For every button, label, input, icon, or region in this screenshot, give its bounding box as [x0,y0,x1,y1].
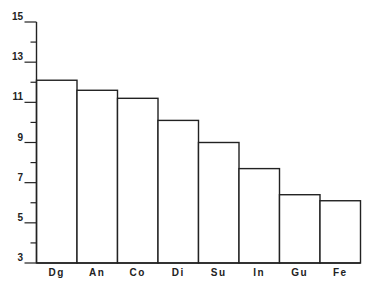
y-ticks: 3579111315 [12,11,37,263]
x-category-labels: DgAnCoDiSuInGuFe [49,267,348,278]
y-tick-label: 13 [12,51,24,62]
y-tick-label: 11 [12,91,23,102]
bar-co [118,98,159,263]
x-category-label: Dg [49,267,65,278]
x-category-label: In [253,267,265,278]
bar-di [158,120,199,263]
x-category-label: Su [211,267,227,278]
bar-fe [320,201,361,263]
x-category-label: Fe [333,267,348,278]
bar-an [77,90,118,263]
y-tick-label: 3 [17,252,23,263]
y-tick-label: 7 [17,172,23,183]
y-tick-label: 15 [12,11,24,22]
x-category-label: Di [172,267,185,278]
x-category-label: An [89,267,105,278]
y-tick-label: 9 [17,132,23,143]
bar-gu [280,195,321,263]
bar-in [239,169,280,263]
x-category-label: Gu [291,267,308,278]
x-category-label: Co [130,267,146,278]
bars-group [37,80,361,263]
bar-chart: 3579111315 DgAnCoDiSuInGuFe [0,0,373,289]
y-tick-label: 5 [17,212,23,223]
bar-dg [37,80,78,263]
bar-su [199,143,240,264]
